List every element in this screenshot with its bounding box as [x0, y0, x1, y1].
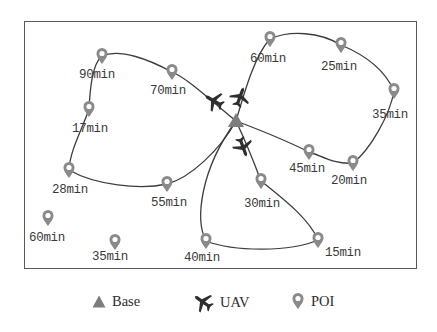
poi-label: 35min: [92, 250, 128, 264]
legend-label-base: Base: [112, 293, 140, 310]
poi-pin-icon: [348, 155, 359, 171]
uav-plane-icon: [227, 84, 253, 110]
poi-pin-icon: [64, 162, 75, 178]
poi-label: 30min: [244, 197, 280, 211]
uav-plane-icon: [230, 134, 256, 160]
uav-plane-icon: [192, 291, 214, 313]
poi-pin-icon: [43, 210, 54, 226]
route-map: [0, 0, 437, 332]
poi-pin-icon: [84, 101, 95, 117]
base-triangle-icon: [228, 113, 244, 127]
poi-label: 25min: [321, 60, 357, 74]
poi-label: 45min: [289, 162, 325, 176]
legend-item-poi: POI: [291, 291, 334, 311]
poi-label: 35min: [372, 108, 408, 122]
poi-pin-icon: [389, 83, 400, 99]
poi-label: 40min: [184, 251, 220, 265]
legend-item-base: Base: [92, 293, 140, 310]
poi-pin-icon: [304, 144, 315, 160]
base-triangle-icon: [92, 295, 106, 308]
legend-label-poi: POI: [311, 293, 334, 310]
poi-pin-icon: [110, 234, 121, 250]
poi-label: 70min: [150, 84, 186, 98]
poi-pin-icon: [256, 173, 267, 189]
base-layer: [228, 113, 244, 127]
poi-pin-icon: [313, 232, 324, 248]
poi-pin-icon: [167, 64, 178, 80]
poi-label: 60min: [29, 231, 65, 245]
poi-label: 60min: [250, 52, 286, 66]
poi-pin-icon: [162, 176, 173, 192]
poi-pin-icon: [336, 37, 347, 53]
diagram-canvas: 90min70min17min28min55min60min35min40min…: [0, 0, 437, 332]
poi-label: 20min: [331, 174, 367, 188]
poi-label: 15min: [325, 246, 361, 260]
legend-item-uav: UAV: [192, 291, 250, 313]
poi-label: 90min: [79, 68, 115, 82]
poi-label: 28min: [52, 183, 88, 197]
poi-pin-icon: [201, 233, 212, 249]
legend-label-uav: UAV: [220, 294, 250, 311]
poi-label: 17min: [72, 122, 108, 136]
poi-pin-icon: [291, 291, 305, 311]
poi-label: 55min: [151, 196, 187, 210]
legend: Base UAV POI: [0, 288, 437, 314]
